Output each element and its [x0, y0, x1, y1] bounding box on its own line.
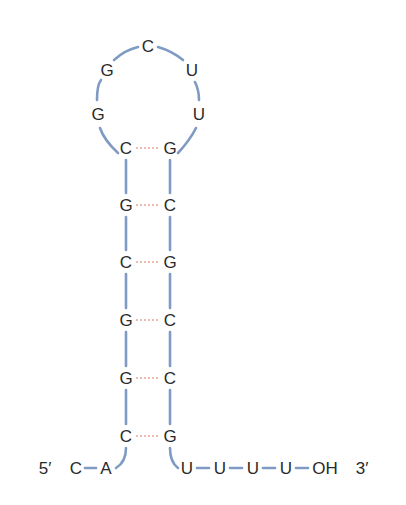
tail-nt: U	[214, 459, 226, 478]
loop-nt: U	[186, 61, 198, 80]
loop-nt: U	[193, 105, 205, 124]
rna-stem-loop-diagram: G G C U U C G G C C G G C G C C G 5′ C A…	[0, 0, 406, 505]
five-prime-label: 5′	[39, 459, 52, 478]
stem-left-nt: C	[120, 427, 132, 446]
loop-nt: G	[100, 61, 113, 80]
stem-right-nt: G	[163, 253, 176, 272]
tail-nt: U	[181, 459, 193, 478]
stem-right-nt: G	[163, 427, 176, 446]
stem-right-nt: C	[164, 311, 176, 330]
three-prime-label: 3′	[356, 459, 369, 478]
stem-left-nt: C	[120, 253, 132, 272]
five-prime-tail: 5′ C A	[39, 459, 113, 478]
stem-right-nt: G	[163, 139, 176, 158]
stem-left-nt: G	[119, 369, 132, 388]
loop-nt: C	[142, 37, 154, 56]
stem-left-nt: G	[119, 196, 132, 215]
stem-right-nt: C	[164, 369, 176, 388]
stem-nucleotides: C G G C C G G C G C C G	[119, 139, 176, 446]
hydroxyl-terminal: OH	[312, 459, 338, 478]
stem-left-nt: C	[120, 139, 132, 158]
tail-nt: A	[100, 459, 112, 478]
loop-nucleotides: G G C U U	[91, 37, 205, 124]
stem-right-nt: C	[164, 196, 176, 215]
loop-nt: G	[91, 105, 104, 124]
tail-nt: C	[70, 459, 82, 478]
tail-nt: U	[247, 459, 259, 478]
tail-nt: U	[280, 459, 292, 478]
hydrogen-bonds	[136, 148, 160, 436]
stem-left-nt: G	[119, 311, 132, 330]
